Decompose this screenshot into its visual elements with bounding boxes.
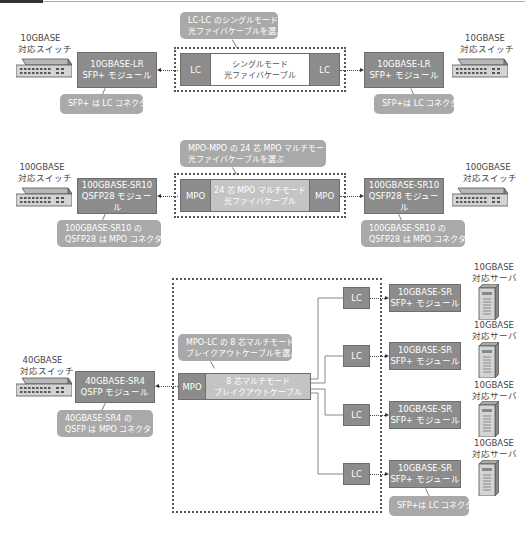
lc-connector-4: LC	[343, 463, 370, 485]
server-label-line2: 対応サーバ	[472, 273, 516, 284]
lc-connector-2: LC	[343, 345, 370, 367]
server-label-line1: 10GBASE	[472, 438, 516, 449]
module-line1: 10GBASE-SR	[390, 404, 460, 415]
server-label-line1: 10GBASE	[472, 320, 516, 331]
server-label-line1: 10GBASE	[472, 380, 516, 391]
module-line2: SFP+ モジュール	[390, 356, 460, 367]
module-line1: 10GBASE-SR	[390, 287, 460, 298]
server-label-4: 10GBASE 対応サーバ	[472, 438, 516, 460]
server-label-1: 10GBASE 対応サーバ	[472, 262, 516, 284]
module-line2: SFP+ モジュール	[390, 474, 460, 485]
server-label-line2: 対応サーバ	[472, 331, 516, 342]
lc-connector-3: LC	[343, 404, 370, 426]
server-label-line2: 対応サーバ	[472, 449, 516, 460]
module-line2: SFP+ モジュール	[390, 298, 460, 309]
server-icon	[477, 284, 499, 320]
row3-bottom-note: SFP+は LC コネクタ	[389, 496, 469, 516]
sr-module-3: 10GBASE-SR SFP+ モジュール	[389, 401, 461, 429]
lc-connector-1: LC	[343, 287, 370, 309]
server-icon	[477, 401, 499, 437]
link-line	[370, 415, 385, 416]
module-line1: 10GBASE-SR	[390, 463, 460, 474]
link-line	[370, 298, 385, 299]
link-line	[370, 356, 385, 357]
sr-module-2: 10GBASE-SR SFP+ モジュール	[389, 342, 461, 370]
server-label-2: 10GBASE 対応サーバ	[472, 320, 516, 342]
module-line1: 10GBASE-SR	[390, 345, 460, 356]
server-label-3: 10GBASE 対応サーバ	[472, 380, 516, 402]
sr-module-4: 10GBASE-SR SFP+ モジュール	[389, 460, 461, 488]
link-line	[370, 474, 385, 475]
server-icon	[477, 342, 499, 378]
server-icon	[477, 460, 499, 496]
sr-module-1: 10GBASE-SR SFP+ モジュール	[389, 284, 461, 312]
breakout-fanout-lines	[0, 0, 525, 534]
server-label-line1: 10GBASE	[472, 262, 516, 273]
module-line2: SFP+ モジュール	[390, 415, 460, 426]
